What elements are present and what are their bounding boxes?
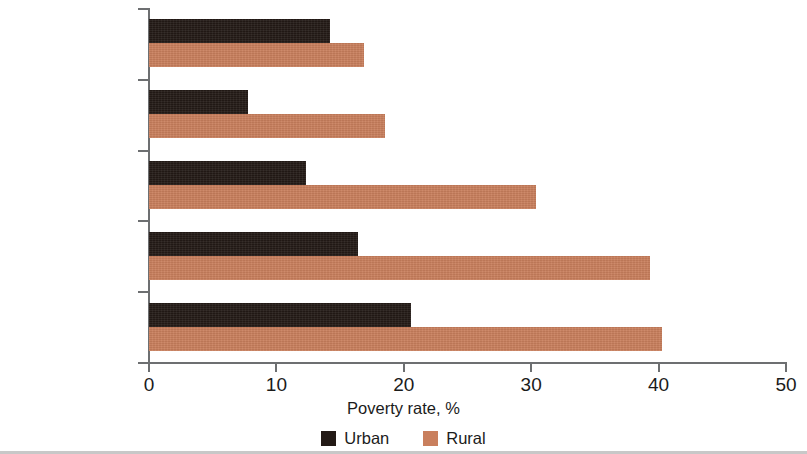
bar-chart: JordanTunisiaEgypt, Arab Rep.IraqYemen, …	[0, 0, 807, 454]
bar-group: Egypt, Arab Rep.	[0, 150, 807, 221]
bar-rural	[149, 327, 662, 351]
chart-legend: UrbanRural	[0, 430, 807, 447]
x-axis-tick-label: 40	[648, 374, 669, 396]
legend-label: Rural	[446, 430, 485, 447]
bar-rural	[149, 43, 364, 67]
x-axis-tick-label: 10	[266, 374, 287, 396]
x-axis-tick	[148, 363, 150, 372]
bar-group: Tunisia	[0, 79, 807, 150]
legend-item-urban[interactable]: Urban	[321, 430, 389, 447]
bar-rural	[149, 185, 536, 209]
bar-rural	[149, 114, 385, 138]
x-axis-tick-label: 0	[144, 374, 155, 396]
bar-group: Iraq	[0, 220, 807, 291]
x-axis-title: Poverty rate, %	[0, 399, 807, 418]
x-axis-tick-label: 20	[393, 374, 414, 396]
legend-swatch-rural	[423, 431, 438, 446]
bar-rural	[149, 256, 650, 280]
bar-urban	[149, 90, 248, 114]
x-axis-tick-label: 50	[775, 374, 796, 396]
legend-swatch-urban	[321, 431, 336, 446]
legend-item-rural[interactable]: Rural	[423, 430, 485, 447]
bar-urban	[149, 161, 306, 185]
x-axis-tick	[785, 363, 787, 372]
x-axis-tick	[403, 363, 405, 372]
x-axis-tick-label: 30	[521, 374, 542, 396]
bar-urban	[149, 19, 330, 43]
x-axis-tick	[275, 363, 277, 372]
x-axis-line	[148, 362, 787, 364]
bar-group: Jordan	[0, 8, 807, 79]
x-axis-tick	[658, 363, 660, 372]
bar-urban	[149, 303, 411, 327]
bar-urban	[149, 232, 358, 256]
legend-label: Urban	[344, 430, 389, 447]
bar-group: Yemen, Rep.	[0, 291, 807, 362]
x-axis-tick	[530, 363, 532, 372]
